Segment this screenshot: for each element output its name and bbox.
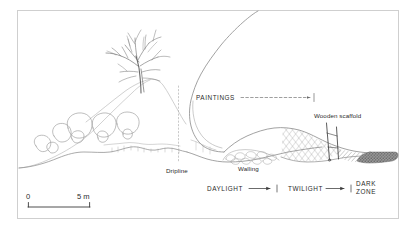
tree-branch — [152, 50, 161, 60]
tree-branch — [158, 56, 170, 57]
walling-stone — [263, 159, 272, 165]
boulder — [53, 123, 72, 142]
tree-twig — [148, 42, 157, 52]
paintings-label: PAINTINGS — [196, 94, 235, 101]
tree-branch — [149, 37, 161, 43]
scale-bar-end-label: 5 m — [77, 193, 90, 202]
talus-upper-edge — [86, 79, 186, 124]
twilight-zone-label: TWILIGHT — [288, 185, 323, 192]
boulder — [67, 113, 92, 138]
tree-branch — [135, 30, 141, 42]
drawing-ink — [19, 11, 398, 207]
deposit-contact-line — [19, 147, 187, 168]
daylight-zone-label: DAYLIGHT — [207, 185, 243, 192]
walling-stone — [226, 155, 235, 161]
scale-bar-start-label: 0 — [26, 193, 30, 202]
dripline-label: Dripline — [166, 168, 188, 175]
deposit-upper-step-line — [104, 143, 180, 146]
boulder — [47, 142, 58, 153]
cave-roof-line — [190, 11, 259, 152]
boulder — [117, 112, 140, 134]
tree-branch — [142, 70, 160, 72]
tree-branch — [140, 57, 158, 66]
ground-surface-left — [19, 80, 150, 168]
tree-branch — [118, 64, 127, 71]
tree-branch — [120, 71, 138, 72]
cave-section-figure: PAINTINGS Wooden scaffold Dripline Walli… — [0, 0, 417, 228]
tree-twig — [127, 36, 130, 46]
wooden-scaffold-label: Wooden scaffold — [314, 113, 361, 120]
tree-branch — [119, 76, 136, 82]
boulder — [92, 113, 116, 137]
tree-twig — [143, 37, 144, 50]
tree-branch — [125, 45, 139, 62]
boulder-group — [34, 112, 139, 153]
entrance-floor-scarp — [191, 140, 216, 150]
tree-trunk-side — [141, 69, 144, 92]
dark-zone-label-line1: DARK — [356, 180, 376, 187]
tree-branch — [138, 43, 149, 60]
scaffold-brace — [327, 133, 337, 136]
walling-label: Walling — [238, 166, 259, 173]
cave-roof-inner-line — [193, 101, 222, 148]
scale-bar — [28, 203, 90, 208]
walling-stone — [246, 152, 256, 159]
dark-zone-label-line2: ZONE — [356, 188, 376, 195]
entrance-scarp-vertical — [196, 142, 210, 154]
